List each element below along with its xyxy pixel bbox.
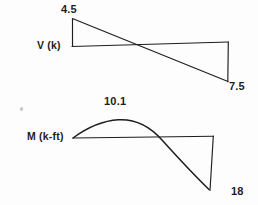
moment-peak-value-label: 10.1 — [104, 96, 126, 107]
shear-diagram — [72, 19, 229, 82]
shear-axis-label: V (k) — [37, 40, 61, 51]
moment-right-value-label: 18 — [231, 186, 244, 197]
shear-right-riser — [228, 42, 229, 82]
moment-diagram — [73, 120, 214, 191]
moment-baseline — [73, 136, 214, 138]
shear-slope-line — [73, 19, 228, 82]
moment-right-riser — [210, 136, 213, 190]
diagram-canvas — [0, 0, 258, 205]
shear-right-value-label: 7.5 — [229, 81, 245, 92]
moment-axis-label: M (k-ft) — [27, 131, 64, 142]
moment-curve — [73, 120, 209, 190]
shear-peak-value-label: 4.5 — [61, 4, 77, 15]
shear-baseline — [72, 42, 229, 47]
shear-moment-figure: 4.5 7.5 V (k) 10.1 18 M (k-ft) — [0, 0, 258, 205]
